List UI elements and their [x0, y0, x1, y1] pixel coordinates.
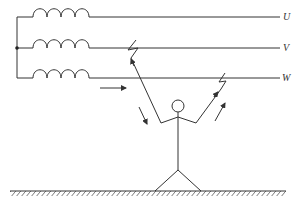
winding-coil-w [33, 70, 89, 78]
current-arrow-left-arm [139, 107, 147, 124]
phase-label-v: V [283, 43, 289, 53]
electric-shock-diagram [0, 0, 299, 220]
phase-label-w: W [282, 73, 290, 83]
contact-point-w [219, 73, 226, 89]
person-left-arm [131, 58, 178, 123]
current-arrow-right-arm [215, 103, 225, 121]
ground-hatching [10, 191, 286, 196]
person-head [172, 100, 184, 112]
winding-coil-v [33, 40, 89, 48]
winding-coil-u [33, 9, 89, 17]
phase-label-u: U [283, 12, 290, 22]
neutral-junction-dot [15, 46, 19, 50]
person-legs [155, 170, 201, 191]
contact-point-v [128, 40, 138, 58]
star-connection-bus [17, 17, 33, 78]
